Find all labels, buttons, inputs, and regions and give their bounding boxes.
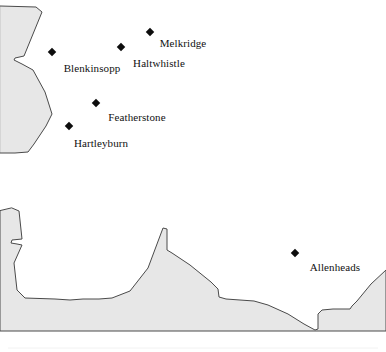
place-label-blenkinsopp: Blenkinsopp <box>64 63 121 74</box>
map-vector-layer <box>0 0 386 352</box>
place-label-featherstone: Featherstone <box>108 112 165 123</box>
region-north-west-land-mass <box>0 6 52 153</box>
place-label-allenheads: Allenheads <box>310 262 360 273</box>
place-label-hartleyburn: Hartleyburn <box>74 138 128 149</box>
map-canvas: Melkridge Haltwhistle Blenkinsopp Feathe… <box>0 0 386 352</box>
place-label-melkridge: Melkridge <box>160 38 207 49</box>
place-label-haltwhistle: Haltwhistle <box>133 58 185 69</box>
